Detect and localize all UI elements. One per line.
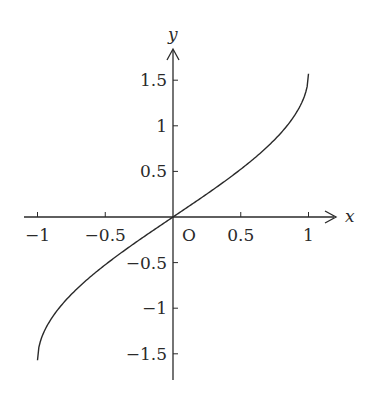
x-tick-label: −0.5 bbox=[85, 225, 126, 245]
origin-label: O bbox=[182, 225, 196, 245]
y-tick-label: −0.5 bbox=[126, 253, 167, 273]
x-tick-label: −1 bbox=[25, 225, 50, 245]
y-tick-label: −1 bbox=[142, 298, 167, 318]
y-tick-label: −1.5 bbox=[126, 344, 167, 364]
arcsin-chart: −1−0.50.511.510.5−0.5−1−1.5 x y O bbox=[0, 0, 376, 401]
x-tick-label: 0.5 bbox=[227, 225, 254, 245]
x-axis-label: x bbox=[345, 206, 355, 226]
y-tick-label: 1 bbox=[156, 116, 167, 136]
y-tick-label: 0.5 bbox=[140, 161, 167, 181]
y-axis-label: y bbox=[167, 24, 178, 44]
y-tick-label: 1.5 bbox=[140, 70, 167, 90]
axes bbox=[24, 49, 336, 380]
x-tick-label: 1 bbox=[303, 225, 314, 245]
